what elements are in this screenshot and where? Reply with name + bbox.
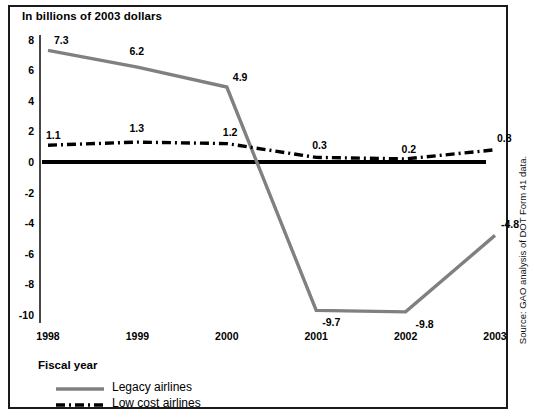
data-point-label: 1.1 [46, 129, 61, 141]
source-note-text: Source: GAO analysis of DOT Form 41 data… [517, 156, 528, 344]
figure: In billions of 2003 dollars 86420-2-4-6-… [0, 0, 534, 418]
chart-legend: Fiscal year Legacy airlinesLow cost airl… [38, 359, 201, 411]
data-point-label: 0.2 [402, 143, 417, 155]
x-tick-label: 2002 [381, 330, 431, 342]
y-tick-label: -2 [8, 187, 34, 199]
legend-entry: Legacy airlines [56, 379, 201, 395]
data-point-label: 0.8 [497, 132, 512, 144]
y-tick-label: 2 [8, 125, 34, 137]
x-tick-label: 1999 [112, 330, 162, 342]
y-tick-label: -4 [8, 217, 34, 229]
y-tick-label: -6 [8, 248, 34, 260]
series-line-legacy-airlines [48, 50, 495, 312]
legend-swatch-low-cost-airlines [56, 397, 104, 409]
data-point-label: 1.2 [223, 126, 238, 138]
plot-area: 86420-2-4-6-8-10 19981999200020012002200… [8, 5, 508, 409]
y-tick-label: -8 [8, 278, 34, 290]
legend-entries: Legacy airlinesLow cost airlines [38, 379, 201, 411]
y-tick-label: 0 [8, 156, 34, 168]
legend-label: Low cost airlines [112, 396, 201, 410]
legend-swatch-legacy-airlines [56, 381, 104, 393]
y-tick-label: 6 [8, 64, 34, 76]
data-point-label: -9.8 [416, 318, 434, 330]
data-point-label: 0.3 [312, 139, 327, 151]
source-note: Source: GAO analysis of DOT Form 41 data… [512, 100, 532, 400]
data-point-label: 7.3 [54, 34, 69, 46]
y-tick-label: 8 [8, 34, 34, 46]
y-tick-label: 4 [8, 95, 34, 107]
chart-plot-svg [8, 5, 508, 409]
data-point-label: -9.7 [322, 316, 340, 328]
legend-entry: Low cost airlines [56, 395, 201, 411]
data-point-label: 6.2 [129, 45, 144, 57]
data-point-label: 4.9 [233, 71, 248, 83]
x-tick-label: 2000 [202, 330, 252, 342]
page-footer-fragment [10, 411, 210, 418]
data-point-label: 1.3 [129, 122, 144, 134]
series-line-low-cost-airlines [48, 142, 495, 159]
y-tick-label: -10 [8, 309, 34, 321]
x-tick-label: 2001 [291, 330, 341, 342]
legend-title: Fiscal year [38, 359, 201, 371]
x-tick-label: 1998 [23, 330, 73, 342]
legend-label: Legacy airlines [112, 380, 192, 394]
